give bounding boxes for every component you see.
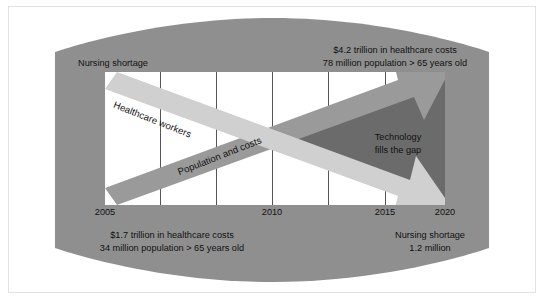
annotation-top-right: $4.2 trillion in healthcare costs 78 mil… [300, 44, 490, 69]
annotation-bottom-right-line2: 1.2 million [370, 242, 490, 255]
axis-tick-2020: 2020 [425, 207, 465, 217]
annotation-technology-line1: Technology [352, 131, 444, 144]
axis-tick-2005: 2005 [85, 207, 125, 217]
annotation-bottom-right-line1: Nursing shortage [370, 229, 490, 242]
annotation-bottom-right: Nursing shortage 1.2 million [370, 229, 490, 254]
annotation-bottom-left-line2: 34 million population > 65 years old [62, 242, 282, 255]
annotation-top-right-line1: $4.2 trillion in healthcare costs [300, 44, 490, 57]
annotation-top-left: Nursing shortage [78, 57, 148, 70]
annotation-technology-line2: fills the gap [352, 144, 444, 157]
gridline-2 [216, 72, 217, 205]
annotation-top-left-line1: Nursing shortage [78, 57, 148, 70]
gridline-4 [328, 72, 329, 205]
annotation-technology-gap: Technology fills the gap [352, 131, 444, 157]
figure-container: Healthcare workers Population and costs … [0, 0, 544, 299]
annotation-bottom-left: $1.7 trillion in healthcare costs 34 mil… [62, 229, 282, 254]
annotation-top-right-line2: 78 million population > 65 years old [300, 57, 490, 70]
gridline-3 [272, 72, 273, 205]
axis-tick-2015: 2015 [365, 207, 405, 217]
axis-tick-2010: 2010 [252, 207, 292, 217]
gridline-1 [160, 72, 161, 205]
annotation-bottom-left-line1: $1.7 trillion in healthcare costs [62, 229, 282, 242]
